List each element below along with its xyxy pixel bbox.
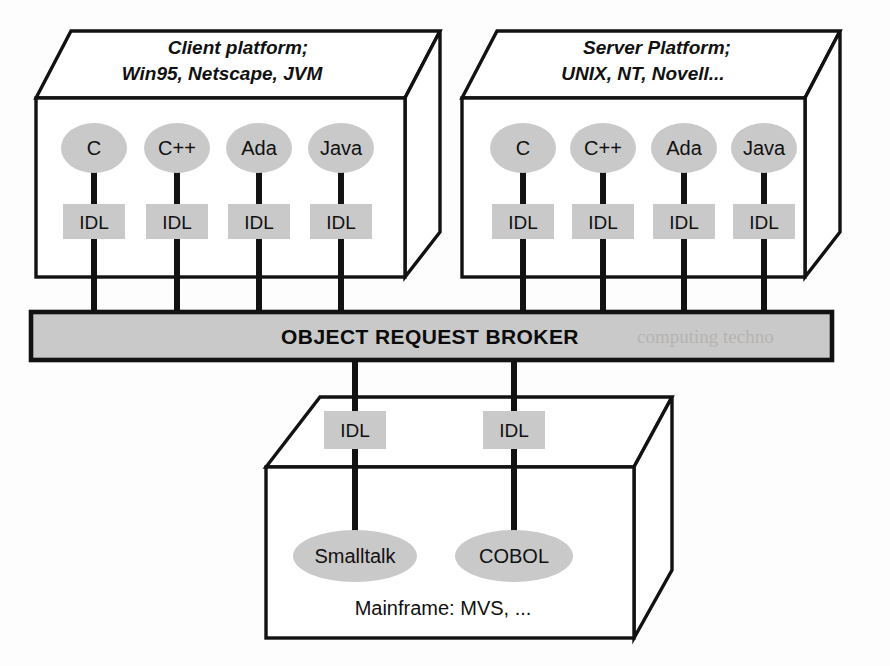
orb-label: OBJECT REQUEST BROKER [281, 325, 579, 348]
client-language-label-java: Java [320, 137, 363, 159]
orb-bleed-through-text-left [88, 326, 93, 347]
client-idl-label-4: IDL [326, 212, 356, 233]
corba-architecture-diagram: Client platform; Win95, Netscape, JVM ID… [0, 0, 890, 666]
mainframe-language-label-smalltalk: Smalltalk [314, 545, 396, 567]
server-platform-label-line1: Server Platform; [583, 37, 731, 58]
server-idl-label-1: IDL [508, 212, 538, 233]
mainframe-platform-label: Mainframe: MVS, ... [355, 597, 532, 619]
client-language-label-ada: Ada [241, 137, 277, 159]
server-language-label-ada: Ada [666, 137, 702, 159]
orb-bleed-through-text: computing techno [637, 326, 774, 347]
mainframe-language-label-cobol: COBOL [479, 545, 549, 567]
object-request-broker-bar: computing techno OBJECT REQUEST BROKER [31, 312, 832, 360]
client-platform-label-line1: Client platform; [168, 37, 308, 58]
server-idl-label-2: IDL [588, 212, 618, 233]
server-language-label-c: C [516, 137, 530, 159]
server-language-label-cpp: C++ [584, 137, 622, 159]
client-idl-label-1: IDL [79, 212, 109, 233]
server-idl-label-4: IDL [749, 212, 779, 233]
server-idl-label-3: IDL [669, 212, 699, 233]
client-language-label-cpp: C++ [158, 137, 196, 159]
server-language-label-java: Java [743, 137, 786, 159]
client-idl-label-3: IDL [244, 212, 274, 233]
mainframe-idl-label-1: IDL [340, 420, 370, 441]
client-idl-label-2: IDL [162, 212, 192, 233]
mainframe-idl-label-2: IDL [499, 420, 529, 441]
client-platform-label-line2: Win95, Netscape, JVM [122, 63, 324, 84]
client-language-label-c: C [87, 137, 101, 159]
diagram-canvas: Client platform; Win95, Netscape, JVM ID… [0, 0, 890, 666]
server-platform-label-line2: UNIX, NT, Novell... [561, 63, 724, 84]
